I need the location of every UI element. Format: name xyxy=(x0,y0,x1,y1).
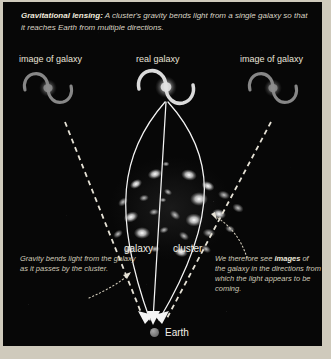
annotation-left: Gravity bends light from the galaxy as i… xyxy=(20,254,138,274)
label-image-of-galaxy-left: image of galaxy xyxy=(19,54,82,64)
annotation-right-bold: images xyxy=(274,254,300,263)
label-real-galaxy: real galaxy xyxy=(136,54,180,64)
caption-lead: Gravitational lensing: xyxy=(21,11,103,20)
figure-caption: Gravitational lensing: A cluster's gravi… xyxy=(21,10,311,33)
gravitational-lensing-figure: Gravitational lensing: A cluster's gravi… xyxy=(0,0,331,359)
label-earth: Earth xyxy=(165,327,189,338)
diagram-panel: Gravitational lensing: A cluster's gravi… xyxy=(3,2,322,346)
label-image-of-galaxy-right: image of galaxy xyxy=(240,54,303,64)
annotation-right: We therefore see images of the galaxy in… xyxy=(215,254,321,294)
earth-dot-icon xyxy=(150,328,159,337)
label-galaxy-cluster-word-1: galaxy xyxy=(124,243,153,254)
annotation-right-lead: We therefore see xyxy=(215,254,274,263)
label-galaxy-cluster-word-2: cluster xyxy=(173,243,202,254)
earth-marker: Earth xyxy=(150,327,189,338)
